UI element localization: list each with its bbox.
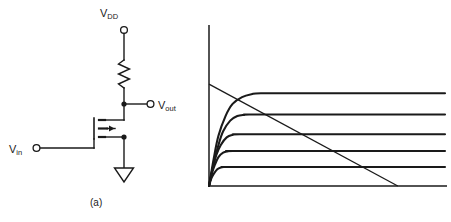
panel-a-circuit-schematic: VDD Vout Vin (a): [0, 0, 200, 222]
label-vin-sub: in: [16, 148, 22, 157]
label-vdd: VDD: [100, 8, 118, 19]
panel-b-characteristic-curves: (b): [195, 0, 451, 222]
drain-curve-3: [209, 134, 445, 186]
body-arrow-head: [109, 126, 115, 132]
iv-curve-chart: [195, 0, 451, 222]
label-vin: Vin: [9, 144, 22, 155]
label-vout: Vout: [158, 100, 176, 111]
figure-container: VDD Vout Vin (a) (b): [0, 0, 451, 222]
drain-curve-5: [209, 167, 445, 186]
ground-symbol: [115, 168, 134, 182]
supply-terminal-circle: [121, 27, 128, 34]
input-terminal-circle: [33, 145, 40, 152]
panel-a-caption: (a): [90, 198, 102, 208]
label-vdd-sub: DD: [107, 12, 118, 21]
load-resistor: [119, 60, 130, 88]
output-terminal-circle: [147, 101, 154, 108]
drain-curve-4: [209, 151, 445, 186]
drain-curve-1: [209, 93, 445, 186]
label-vout-sub: out: [165, 104, 175, 113]
drain-curves-group: [209, 93, 445, 186]
